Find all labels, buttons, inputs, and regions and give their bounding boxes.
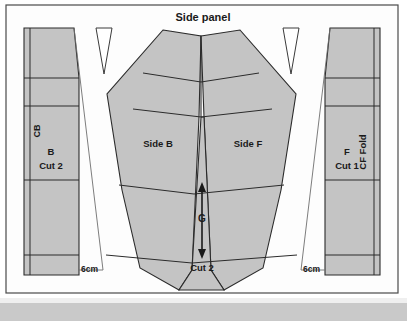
side-back-label: Side B [143,138,173,149]
pattern-diagram-svg: Side panel CB B Cut 2 Side B Side F G Cu… [0,0,407,321]
grain-label: G [198,213,206,224]
front-piece-label: F [344,146,350,157]
pattern-diagram-canvas: Side panel CB B Cut 2 Side B Side F G Cu… [0,0,407,321]
center-cut-label: Cut 2 [190,262,214,273]
back-cut-label: Cut 2 [39,160,63,171]
left-measure-label: 6cm [81,264,98,274]
footer-bar [0,303,407,321]
right-panel-shape [325,28,380,275]
right-measure-label: 6cm [303,264,320,274]
center-front-fold-label: CF Fold [357,134,368,170]
footer-gap [0,298,407,303]
diagram-title: Side panel [175,11,230,23]
center-back-label: CB [32,124,42,137]
back-piece-label: B [48,146,55,157]
side-front-label: Side F [234,138,263,149]
front-cut-label: Cut 1 [335,160,359,171]
